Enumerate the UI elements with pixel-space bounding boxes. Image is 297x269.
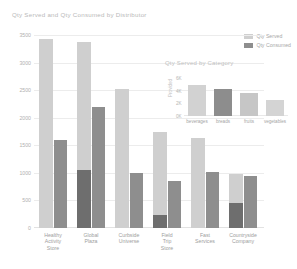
chart-canvas: Qty Served and Qty Consumed by Distribut… [0,0,297,269]
inset-y-axis-tick-label: 4K [176,88,182,93]
bar-qty-consumed-overlay[interactable] [77,170,91,228]
bar-qty-served[interactable] [39,39,53,228]
bar-qty-served[interactable] [153,132,167,229]
x-axis-tick-label: CountrysideCompany [229,232,257,245]
bar-qty-consumed[interactable] [130,173,144,228]
inset-x-axis-tick-label: vegetables [264,119,286,124]
inset-x-axis-tick-label: fruits [244,119,254,124]
inset-y-axis-label: Provided [168,79,173,97]
bar-group: CurbsideUniverse [110,35,148,228]
bar-qty-consumed[interactable] [54,140,68,228]
bar-group: GlobalPlaza [72,35,110,228]
bar-qty-served[interactable] [115,89,129,228]
bar-group: HealthyActivityStore [34,35,72,228]
inset-y-axis-tick-label: 6K [176,76,182,81]
y-axis-tick-label: 2000 [19,115,31,121]
x-axis-tick-label: FastServices [195,232,215,245]
y-axis-tick-label: 0 [28,225,31,231]
x-axis-tick-label: FieldTripStore [161,232,173,251]
page-title: Qty Served and Qty Consumed by Distribut… [12,11,147,18]
bar-qty-consumed[interactable] [168,181,182,228]
x-axis-tick-label: CurbsideUniverse [119,232,140,245]
x-axis-tick-label: GlobalPlaza [84,232,99,245]
inset-chart: Qty Served by Category Provided 0K2K4K6K… [158,60,294,132]
inset-bar[interactable]: vegetables [266,100,284,116]
bar-qty-consumed-overlay[interactable] [229,203,243,228]
inset-title: Qty Served by Category [165,60,233,66]
y-axis-tick-label: 3500 [19,32,31,38]
y-axis-tick-label: 3000 [19,60,31,66]
bar-qty-consumed[interactable] [92,107,106,228]
inset-bar[interactable]: fruits [240,93,258,116]
bar-qty-consumed[interactable] [206,172,220,228]
y-axis-tick-label: 1000 [19,170,31,176]
y-axis-tick-label: 500 [22,197,31,203]
inset-x-axis-tick-label: beverages [186,119,207,124]
x-axis-tick-label: HealthyActivityStore [44,232,62,251]
inset-y-axis-tick-label: 0K [176,114,182,119]
bar-qty-consumed[interactable] [244,176,258,228]
inset-bar[interactable]: breads [214,89,232,116]
inset-x-axis-tick-label: breads [216,119,230,124]
bar-qty-consumed-overlay[interactable] [153,215,167,228]
y-axis-tick-label: 2500 [19,87,31,93]
inset-y-axis-tick-label: 2K [176,101,182,106]
inset-plot-area: 0K2K4K6K beveragesbreadsfruitsvegetables [184,78,288,116]
y-axis-tick-label: 1500 [19,142,31,148]
bar-qty-served[interactable] [191,138,205,228]
inset-bar[interactable]: beverages [188,85,206,116]
